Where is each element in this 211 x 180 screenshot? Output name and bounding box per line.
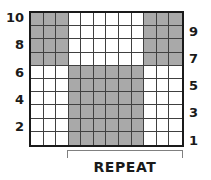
grid-cell [132,26,145,39]
row-label-4: 4 [15,93,24,107]
grid-cell [31,92,44,105]
grid-cell [94,66,107,79]
grid-cell [106,26,119,39]
row-label-1: 1 [189,133,198,147]
grid-cell [157,53,170,66]
grid-cell [157,39,170,52]
grid-cell [132,53,145,66]
grid-cell [106,79,119,92]
grid-cell [169,26,182,39]
grid-cell [56,26,69,39]
grid-cell [144,132,157,145]
grid-cell [94,26,107,39]
grid-cell [31,26,44,39]
grid-cell [31,53,44,66]
grid-cell [169,53,182,66]
grid-cell [31,79,44,92]
grid-cell [144,105,157,118]
grid-cell [119,66,132,79]
grid-cell [119,26,132,39]
row-label-2: 2 [15,120,24,134]
grid-cell [132,119,145,132]
grid-cell [44,119,57,132]
grid-cell [69,66,82,79]
grid-cell [56,132,69,145]
grid-cell [44,39,57,52]
grid-cell [106,53,119,66]
grid-cell [81,79,94,92]
grid-cell [56,79,69,92]
grid-cell [132,105,145,118]
row-label-7: 7 [189,52,198,66]
grid-cell [56,39,69,52]
grid-cell [119,53,132,66]
grid-cell [94,132,107,145]
grid-cell [44,105,57,118]
grid-cell [69,119,82,132]
grid-cell [119,13,132,26]
grid-cell [44,26,57,39]
grid-cell [169,79,182,92]
grid-cell [119,79,132,92]
stitch-pattern-chart: 10 8 6 4 2 9 7 5 3 1 REPEAT [0,0,211,180]
grid-cell [144,66,157,79]
grid-cells-container [31,13,182,145]
grid-cell [169,92,182,105]
grid-cell [106,119,119,132]
grid-cell [169,13,182,26]
row-label-5: 5 [189,79,198,93]
grid-cell [94,13,107,26]
grid-cell [69,13,82,26]
row-numbers-left: 10 8 6 4 2 [2,11,27,147]
grid-cell [56,92,69,105]
grid-cell [31,105,44,118]
row-label-3: 3 [189,106,198,120]
grid-cell [157,119,170,132]
grid-cell [81,119,94,132]
grid-cell [144,79,157,92]
grid-cell [69,39,82,52]
grid-cell [144,53,157,66]
grid-cell [144,39,157,52]
grid-cell [44,79,57,92]
grid-cell [169,119,182,132]
grid-cell [169,105,182,118]
grid-cell [31,66,44,79]
grid-cell [56,66,69,79]
grid-cell [31,13,44,26]
grid-cell [56,105,69,118]
grid-cell [31,39,44,52]
grid-cell [81,13,94,26]
grid-cell [81,26,94,39]
grid-cell [56,53,69,66]
grid-cell [132,39,145,52]
grid-cell [44,13,57,26]
grid-cell [106,132,119,145]
grid-cell [144,92,157,105]
row-label-6: 6 [15,65,24,79]
grid-cell [144,119,157,132]
grid-cell [69,92,82,105]
row-numbers-right: 9 7 5 3 1 [186,11,210,147]
grid-cell [81,92,94,105]
repeat-label: REPEAT [57,159,193,175]
grid-cell [157,13,170,26]
grid-cell [56,119,69,132]
grid-cell [106,39,119,52]
grid-cell [157,105,170,118]
grid-cell [157,92,170,105]
grid-cell [132,13,145,26]
grid-cell [132,66,145,79]
grid-cell [56,13,69,26]
grid-cell [106,105,119,118]
grid-cell [119,105,132,118]
pattern-grid [29,11,184,147]
grid-cell [157,26,170,39]
grid-cell [169,66,182,79]
grid-cell [106,92,119,105]
grid-cell [132,132,145,145]
grid-cell [69,26,82,39]
row-label-9: 9 [189,25,198,39]
grid-cell [94,105,107,118]
grid-cell [157,132,170,145]
